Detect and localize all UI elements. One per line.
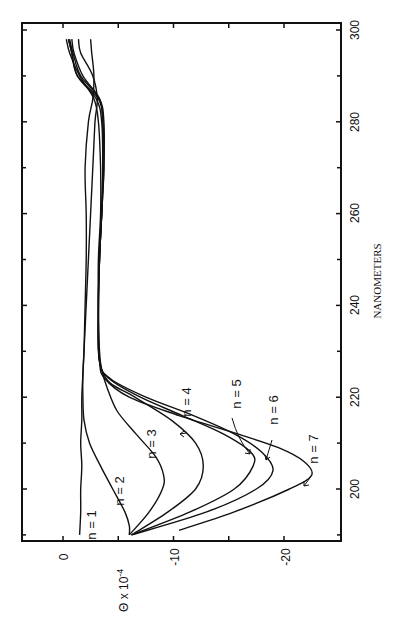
- cd-spectrum-chart: 200 220 240 260 280 300 NANOMETERS 0 -10…: [0, 0, 397, 621]
- y-tick-label-minus20: -20: [279, 548, 293, 566]
- x-tick-label-220: 220: [348, 387, 362, 407]
- y-axis-ticks: [63, 23, 284, 541]
- x-tick-label-260: 260: [348, 203, 362, 223]
- x-tick-label-280: 280: [348, 112, 362, 132]
- curve-n4: [72, 39, 204, 535]
- curves: [66, 39, 312, 535]
- label-n3: n = 3: [144, 429, 159, 458]
- x-axis-ticks: [22, 30, 341, 535]
- curve-n7: [69, 39, 313, 530]
- label-n1: n = 1: [84, 510, 99, 539]
- plot-frame: [22, 23, 341, 541]
- y-axis-label: Θ x 10-4: [115, 569, 131, 612]
- label-n7: n = 7: [306, 434, 321, 463]
- label-n4: n = 4: [179, 387, 194, 416]
- svg-text:Θ x 10-4: Θ x 10-4: [115, 569, 131, 612]
- y-axis-label-main: Θ x 10: [117, 576, 131, 612]
- label-n5: n = 5: [229, 379, 244, 408]
- x-tick-label-300: 300: [348, 20, 362, 40]
- x-axis-label: NANOMETERS: [371, 243, 383, 318]
- y-tick-label-minus10: -10: [168, 548, 182, 566]
- y-axis-label-exponent: -4: [115, 569, 125, 577]
- x-tick-label-240: 240: [348, 295, 362, 315]
- label-n6: n = 6: [266, 395, 281, 424]
- label-n2: n = 2: [112, 476, 127, 505]
- x-tick-label-200: 200: [348, 479, 362, 499]
- y-tick-label-0: 0: [57, 553, 71, 560]
